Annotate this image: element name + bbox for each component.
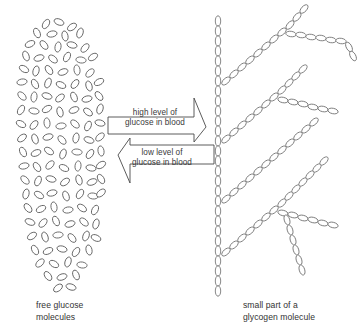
glycogen-branch-1 [220,3,357,86]
high-level-arrow-label: high level of glucose in blood [113,108,197,128]
free-glucose-caption-line-2: molecules [36,312,83,324]
glycogen-branch-2 [220,63,338,144]
free-glucose-caption: free glucose molecules [36,300,83,323]
low-level-line-1: low level of [120,148,204,158]
free-glucose-cloud [15,17,107,293]
glycogen-caption-line-2: glycogen molecule [243,312,315,324]
glycogen-caption: small part of a glycogen molecule [243,300,315,323]
low-level-line-2: glucose in blood [120,158,204,168]
glycogen-molecule [215,3,358,296]
diagram-canvas: high level of glucose in blood low level… [0,0,362,331]
glycogen-branch-4 [220,155,338,275]
glycogen-caption-line-1: small part of a [243,300,315,312]
low-level-arrow-label: low level of glucose in blood [120,148,204,168]
free-glucose-caption-line-1: free glucose [36,300,83,312]
high-level-line-1: high level of [113,108,197,118]
high-level-line-2: glucose in blood [113,118,197,128]
glycogen-backbone [215,16,220,296]
